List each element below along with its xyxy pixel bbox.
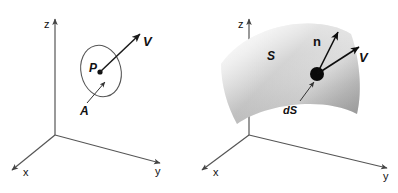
axis-x	[202, 135, 249, 170]
label-area-a: A	[79, 104, 89, 118]
axis-label-z: z	[238, 18, 244, 30]
label-surface-s: S	[267, 49, 275, 63]
axis-label-x: x	[213, 166, 219, 178]
label-vector-v: V	[359, 50, 369, 65]
axis-label-z: z	[44, 18, 50, 30]
axis-x	[12, 135, 55, 170]
label-element-ds: dS	[283, 104, 298, 116]
figure-root: z y x P A V	[0, 0, 398, 193]
label-point-p: P	[89, 61, 98, 75]
curved-surface-panel: z y x S dS n	[199, 0, 398, 193]
area-leader-line	[87, 82, 105, 103]
axis-label-y: y	[383, 170, 389, 182]
axis-label-y: y	[155, 165, 161, 177]
axis-y	[55, 135, 160, 163]
axis-label-x: x	[23, 166, 29, 178]
axis-y	[249, 135, 387, 168]
label-normal-n: n	[313, 34, 321, 49]
label-vector-v: V	[143, 34, 153, 49]
flat-area-panel: z y x P A V	[0, 0, 199, 193]
